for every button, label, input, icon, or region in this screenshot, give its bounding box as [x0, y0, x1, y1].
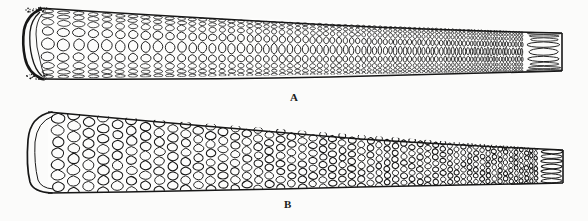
figure-page: A B	[0, 0, 588, 221]
scientific-figure-illustration	[0, 0, 588, 221]
panel-a-drawing	[23, 7, 562, 81]
panel-label-a: A	[290, 92, 298, 103]
panel-b-drawing	[27, 110, 563, 197]
panel-label-b: B	[284, 199, 292, 210]
